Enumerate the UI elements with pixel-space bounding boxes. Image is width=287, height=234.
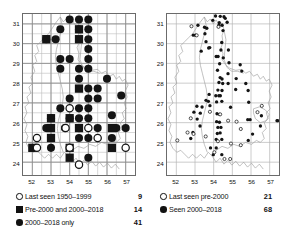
legend-count: 68 <box>255 205 272 214</box>
distribution-map-figure: 31 30 29 28 27 26 25 24 52 53 54 55 56 5… <box>0 0 287 234</box>
left-x-tick-57: 57 <box>123 178 130 185</box>
right-x-tick-56: 56 <box>248 178 255 185</box>
filled-circle-icon <box>158 206 169 213</box>
right-y-tick-28: 28 <box>157 80 164 87</box>
right-legend: Last seen pre-2000 21 Seen 2000–2018 68 <box>158 190 282 216</box>
legend-count: 9 <box>125 192 142 201</box>
legend-row: Pre-2000 and 2000–2018 14 <box>14 203 142 216</box>
left-legend: Last seen 1950–1999 9 Pre-2000 and 2000–… <box>14 190 142 229</box>
filled-square-icon <box>14 206 25 212</box>
left-y-tick-29: 29 <box>13 60 20 67</box>
legend-count: 14 <box>125 205 142 214</box>
legend-label: 2000–2018 only <box>25 218 125 227</box>
left-y-tick-24: 24 <box>13 160 20 167</box>
left-plot-area <box>22 13 136 176</box>
legend-label: Last seen 1950–1999 <box>25 192 125 201</box>
open-circle-icon <box>158 193 169 199</box>
legend-row: Seen 2000–2018 68 <box>158 203 282 216</box>
left-x-tick-56: 56 <box>104 178 111 185</box>
left-x-tick-54: 54 <box>66 178 73 185</box>
left-x-tick-55: 55 <box>85 178 92 185</box>
left-y-tick-25: 25 <box>13 140 20 147</box>
legend-label: Last seen pre-2000 <box>169 192 255 201</box>
left-y-tick-26: 26 <box>13 120 20 127</box>
right-y-tick-27: 27 <box>157 100 164 107</box>
right-y-tick-25: 25 <box>157 140 164 147</box>
left-y-tick-31: 31 <box>13 20 20 27</box>
legend-row: Last seen 1950–1999 9 <box>14 190 142 203</box>
right-x-tick-55: 55 <box>229 178 236 185</box>
right-x-tick-57: 57 <box>267 178 274 185</box>
left-plot-wrapper: 31 30 29 28 27 26 25 24 52 53 54 55 56 5… <box>22 13 136 176</box>
left-y-tick-30: 30 <box>13 40 20 47</box>
right-y-tick-24: 24 <box>157 160 164 167</box>
left-series-filled-circle <box>42 15 129 161</box>
legend-label: Seen 2000–2018 <box>169 205 255 214</box>
left-x-tick-52: 52 <box>28 178 35 185</box>
right-plot-area <box>166 13 280 176</box>
right-series-filled-dot <box>189 14 279 156</box>
left-y-tick-27: 27 <box>13 100 20 107</box>
right-y-tick-30: 30 <box>157 40 164 47</box>
right-plot-wrapper: 31 30 29 28 27 26 25 24 52 53 54 55 56 5… <box>166 13 280 176</box>
open-circle-icon <box>14 193 25 199</box>
left-x-tick-53: 53 <box>47 178 54 185</box>
right-x-tick-53: 53 <box>191 178 198 185</box>
right-x-tick-52: 52 <box>172 178 179 185</box>
legend-row: Last seen pre-2000 21 <box>158 190 282 203</box>
legend-label: Pre-2000 and 2000–2018 <box>25 205 125 214</box>
right-data-points <box>167 14 279 175</box>
legend-count: 21 <box>255 192 272 201</box>
right-y-tick-31: 31 <box>157 20 164 27</box>
right-y-tick-29: 29 <box>157 60 164 67</box>
left-data-points <box>23 14 135 175</box>
legend-row: 2000–2018 only 41 <box>14 216 142 229</box>
left-series-filled-square <box>28 25 116 162</box>
legend-count: 41 <box>125 218 142 227</box>
left-y-tick-28: 28 <box>13 80 20 87</box>
right-x-tick-54: 54 <box>210 178 217 185</box>
right-y-tick-26: 26 <box>157 120 164 127</box>
right-series-open-dot <box>176 25 264 161</box>
filled-circle-icon <box>14 219 25 226</box>
